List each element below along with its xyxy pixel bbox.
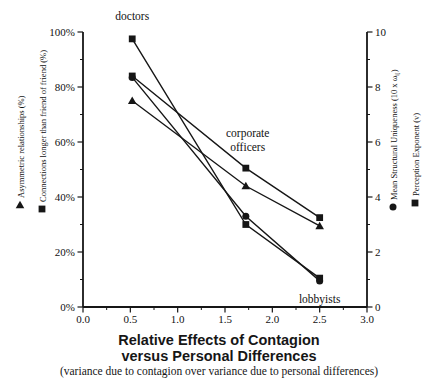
legend-perception-exponent-label: Perception Exponent (v) (411, 113, 421, 196)
series-line-square-left (132, 76, 319, 218)
x-tick-label: 0.0 (76, 313, 90, 325)
series-line-circle-right (132, 77, 319, 281)
series-line-square-right (132, 39, 319, 278)
x-tick-label: 2.5 (313, 313, 327, 325)
square-marker (316, 275, 323, 282)
circle-marker (242, 213, 249, 220)
legend-mean-structural-uniqueness-marker (390, 204, 397, 211)
y-left-tick-label: 0% (60, 301, 75, 313)
x-tick-label: 3.0 (360, 313, 374, 325)
annotation-doctors: doctors (115, 10, 149, 22)
annotation-corporate: officers (230, 141, 265, 153)
legend-connections-longer-marker (39, 206, 46, 213)
y-left-tick-label: 80% (55, 81, 75, 93)
y-left-tick-label: 40% (55, 191, 75, 203)
square-marker (316, 214, 323, 221)
x-tick-label: 1.5 (218, 313, 232, 325)
x-axis-subtitle: (variance due to contagion over variance… (0, 364, 438, 378)
legend-perception-exponent-marker (412, 200, 419, 207)
x-axis-title-block: Relative Effects of Contagion versus Per… (0, 332, 438, 378)
contagion-figure: 0%20%40%60%80%100%02468100.00.51.01.52.0… (0, 0, 438, 385)
y-right-tick-label: 10 (375, 26, 387, 38)
legend-asymmetric-relationships-marker (16, 201, 25, 209)
square-marker (242, 221, 249, 228)
contagion-chart: 0%20%40%60%80%100%02468100.00.51.01.52.0… (0, 0, 438, 332)
triangle-marker (315, 222, 324, 230)
square-marker (129, 73, 136, 80)
legend-connections-longer-label: Connections longer than friend of friend… (38, 50, 48, 202)
x-tick-label: 2.0 (265, 313, 279, 325)
triangle-marker (128, 97, 137, 105)
y-left-tick-label: 100% (49, 26, 75, 38)
y-left-tick-label: 60% (55, 136, 75, 148)
x-tick-label: 1.0 (171, 313, 185, 325)
square-marker (129, 35, 136, 42)
y-right-tick-label: 4 (375, 191, 381, 203)
x-axis-title-line1: Relative Effects of Contagion (0, 332, 438, 348)
square-marker (242, 165, 249, 172)
y-left-tick-label: 20% (55, 246, 75, 258)
annotation-lobbyists: lobbyists (299, 293, 341, 306)
y-right-tick-label: 6 (375, 136, 381, 148)
x-axis-title-line2: versus Personal Differences (0, 348, 438, 364)
series-line-triangle-left (132, 101, 319, 226)
y-right-tick-label: 0 (375, 301, 381, 313)
y-right-tick-label: 2 (375, 246, 381, 258)
y-right-tick-label: 8 (375, 81, 381, 93)
legend-mean-structural-uniqueness-label: Mean Structural Uniqueness (10 x ωij) (389, 69, 400, 200)
legend-asymmetric-relationships-label: Asymmetric relationships (%) (16, 95, 26, 198)
annotation-corporate: corporate (226, 127, 269, 140)
x-tick-label: 0.5 (123, 313, 137, 325)
